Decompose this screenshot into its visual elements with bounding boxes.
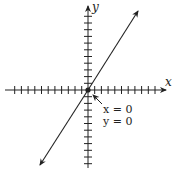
coordinate-plane: y x x = 0 y = 0 — [0, 0, 173, 169]
origin-point — [85, 87, 90, 92]
annotation-y-equals: y = 0 — [102, 115, 132, 128]
annotation-pointer-arrow — [93, 95, 102, 104]
graph-line — [88, 11, 138, 90]
graph-line-lower — [40, 90, 88, 165]
x-axis-label: x — [165, 75, 172, 89]
y-axis-label: y — [91, 0, 99, 14]
